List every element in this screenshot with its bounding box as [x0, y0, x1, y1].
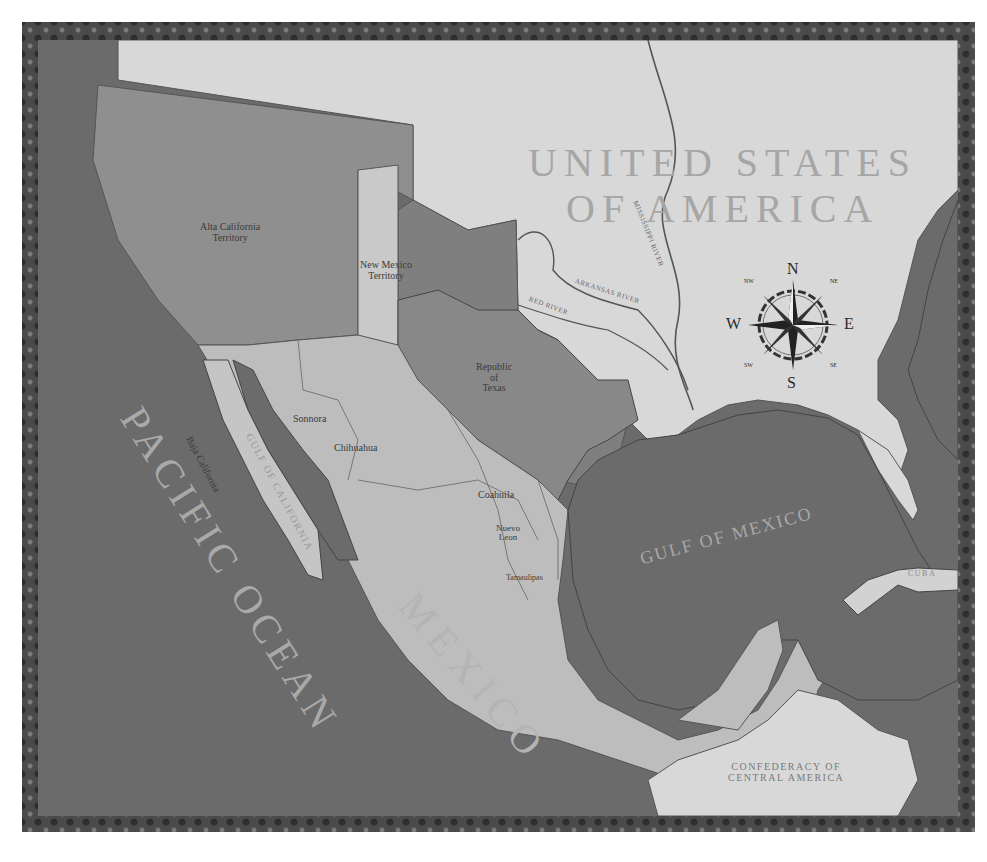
coahuila-label: Coahuila [478, 490, 514, 501]
new-mexico-territory [358, 165, 398, 345]
compass-se: SE [830, 362, 837, 368]
compass-ne: NE [830, 278, 838, 284]
cuba-label: CUBA [908, 570, 936, 578]
nuevo-leon-label: Nuevo Leon [496, 524, 520, 543]
compass-w: W [726, 315, 741, 333]
alta-california-label: Alta California Territory [200, 222, 260, 243]
compass-e: E [844, 315, 854, 333]
tamaulipas-label: Tamaulipas [506, 574, 543, 582]
compass-star-icon [738, 270, 848, 390]
usa-label-2: OF AMERICA [566, 188, 879, 230]
compass-s: S [787, 374, 796, 392]
compass-rose: N S W E NW NE SW SE [738, 270, 848, 390]
central-america-label: CONFEDERACY OF CENTRAL AMERICA [728, 762, 844, 783]
chihuahua-label: Chihuahua [334, 443, 377, 454]
compass-sw: SW [744, 362, 753, 368]
compass-n: N [787, 260, 799, 278]
compass-nw: NW [744, 278, 754, 284]
new-mexico-label: New Mexico Territory [360, 260, 412, 281]
texas-label: Republic of Texas [476, 362, 512, 394]
map-canvas[interactable]: UNITED STATES OF AMERICA Alta California… [38, 40, 958, 816]
sonora-label: Sonnora [293, 414, 326, 425]
usa-label: UNITED STATES [528, 142, 917, 184]
